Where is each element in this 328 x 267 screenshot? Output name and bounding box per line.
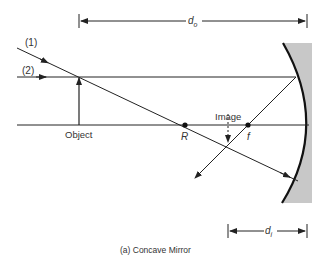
center-of-curvature-label: R <box>181 131 188 142</box>
center-of-curvature-point <box>182 122 187 127</box>
svg-text:do: do <box>188 15 198 28</box>
figure-caption: (a) Concave Mirror <box>120 245 191 255</box>
ray-1-incident <box>17 48 298 181</box>
svg-text:di: di <box>265 225 273 238</box>
concave-mirror-ray-diagram: (1) (2) Object Image R f do di (a) Conca… <box>0 0 328 267</box>
ray-1-return-arrow-icon <box>280 173 290 178</box>
ray-2-reflected <box>195 77 296 178</box>
concave-mirror <box>282 43 312 203</box>
image-label: Image <box>215 111 241 122</box>
ray-1-label: (1) <box>25 37 37 48</box>
image-distance-dimension: di <box>228 224 307 238</box>
object-label: Object <box>65 129 93 140</box>
focal-point <box>245 122 250 127</box>
ray-2-label: (2) <box>22 65 34 76</box>
focal-point-label: f <box>247 131 251 142</box>
object-distance-dimension: do <box>79 14 307 28</box>
image-distance-subscript: i <box>271 231 273 238</box>
object-distance-subscript: o <box>194 21 198 28</box>
ray-1-arrow-icon <box>40 59 48 63</box>
